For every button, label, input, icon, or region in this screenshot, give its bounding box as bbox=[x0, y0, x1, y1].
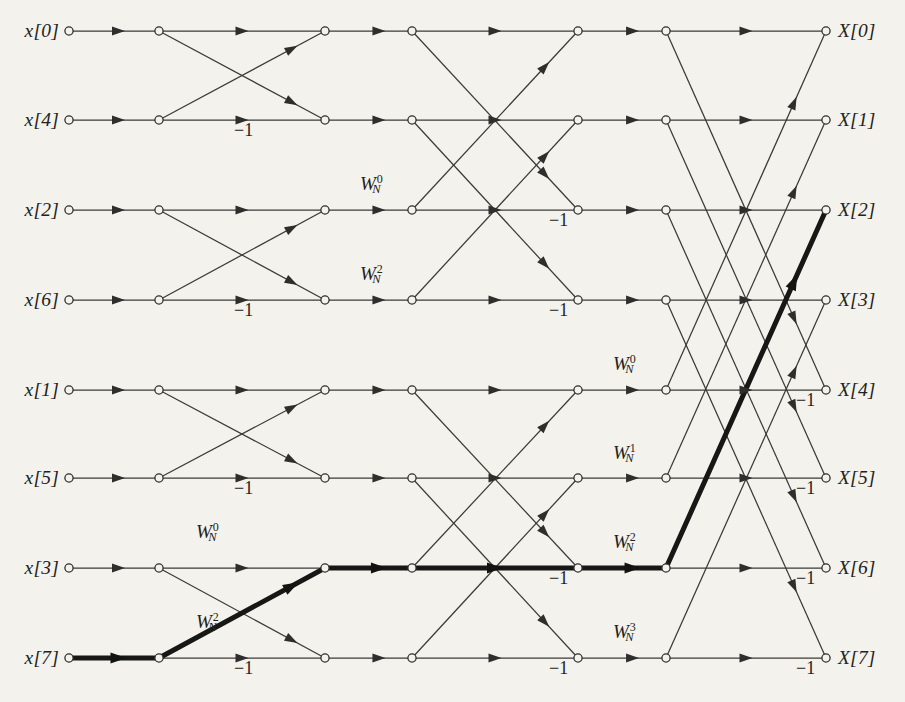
stage2-straight-bot-r7-arrowhead bbox=[489, 654, 502, 663]
stage1-cross-down-r0-arrowhead bbox=[284, 95, 298, 105]
stage2-link-r3-arrowhead bbox=[626, 296, 639, 305]
stage2-straight-bot-r6-arrowhead bbox=[487, 562, 503, 573]
graph-node-c5-r2 bbox=[662, 206, 670, 214]
graph-node-c0-r4 bbox=[65, 386, 73, 394]
graph-node-c2-r7 bbox=[321, 654, 329, 662]
stage3-cross-up-r7-arrowhead bbox=[787, 366, 796, 380]
stage2-straight-bot-r3-arrowhead bbox=[489, 296, 502, 305]
input-lead-x[5]-arrowhead bbox=[112, 474, 125, 483]
stage2-link-r5-arrowhead bbox=[626, 474, 639, 483]
stage1-cross-down-r4-arrowhead bbox=[284, 453, 298, 463]
stage3-straight-bot-r7-arrowhead bbox=[740, 654, 753, 663]
stage3-straight-bot-r5-arrowhead bbox=[740, 474, 753, 483]
graph-node-c5-r3 bbox=[662, 296, 670, 304]
stage1-cross-up-r1-arrowhead bbox=[284, 46, 298, 56]
input-lead-x[2]-arrowhead bbox=[112, 206, 125, 215]
graph-node-c0-r0 bbox=[65, 27, 73, 35]
graph-node-c4-r0 bbox=[574, 27, 582, 35]
stage1-cross-down-r2-arrowhead bbox=[284, 275, 298, 285]
twiddle-label-WN1-5: W1N bbox=[613, 440, 643, 463]
stage2-link-r2-arrowhead bbox=[626, 206, 639, 215]
input-label-x[3]: x[3] bbox=[25, 557, 59, 579]
flow-graph-canvas bbox=[0, 0, 905, 702]
graph-node-c6-r1 bbox=[822, 116, 830, 124]
minus-one-label-11: −1 bbox=[796, 658, 815, 679]
minus-one-label-4: −1 bbox=[549, 210, 568, 231]
graph-node-c1-r0 bbox=[155, 27, 163, 35]
input-lead-x[3]-arrowhead bbox=[112, 564, 125, 573]
output-label-X[3]: X[3] bbox=[838, 289, 876, 311]
minus-one-label-6: −1 bbox=[549, 568, 568, 589]
twiddle-label-WN2-3: W2N bbox=[196, 609, 226, 632]
stage3-cross-up-r5-arrowhead bbox=[787, 186, 796, 200]
stage3-straight-top-r0-arrowhead bbox=[740, 27, 753, 36]
stage2-straight-bot-r2-arrowhead bbox=[489, 206, 502, 215]
graph-node-c0-r1 bbox=[65, 116, 73, 124]
stage1-cross-up-r3-arrowhead bbox=[284, 225, 298, 235]
output-label-X[6]: X[6] bbox=[838, 557, 876, 579]
stage1-cross-down-r6-arrowhead bbox=[284, 633, 298, 643]
input-lead-x[6]-arrowhead bbox=[112, 296, 125, 305]
graph-node-c3-r5 bbox=[408, 474, 416, 482]
output-label-X[5]: X[5] bbox=[838, 467, 876, 489]
input-label-x[4]: x[4] bbox=[25, 109, 59, 131]
graph-node-c2-r3 bbox=[321, 296, 329, 304]
stage3-straight-bot-r6-arrowhead bbox=[740, 564, 753, 573]
minus-one-label-9: −1 bbox=[796, 478, 815, 499]
graph-node-c5-r6 bbox=[662, 564, 670, 572]
graph-node-c1-r7 bbox=[155, 654, 163, 662]
graph-node-c4-r3 bbox=[574, 296, 582, 304]
graph-node-c1-r2 bbox=[155, 206, 163, 214]
stage2-link-r7-arrowhead bbox=[626, 654, 639, 663]
minus-one-label-2: −1 bbox=[234, 478, 253, 499]
graph-node-c5-r1 bbox=[662, 116, 670, 124]
graph-node-c4-r2 bbox=[574, 206, 582, 214]
highlight-path-layer bbox=[69, 210, 826, 658]
stage2-link-r0-arrowhead bbox=[626, 27, 639, 36]
graph-node-c2-r5 bbox=[321, 474, 329, 482]
minus-one-label-3: −1 bbox=[234, 658, 253, 679]
thin-wires-layer bbox=[69, 31, 826, 658]
output-label-X[0]: X[0] bbox=[838, 20, 876, 42]
graph-node-c4-r1 bbox=[574, 116, 582, 124]
input-label-x[5]: x[5] bbox=[25, 467, 59, 489]
stage1-link-r1-arrowhead bbox=[372, 116, 385, 125]
graph-node-c2-r6 bbox=[321, 564, 329, 572]
graph-node-c5-r5 bbox=[662, 474, 670, 482]
input-label-x[6]: x[6] bbox=[25, 289, 59, 311]
stage3-cross-up-r4-arrowhead bbox=[787, 97, 796, 111]
graph-node-c3-r3 bbox=[408, 296, 416, 304]
stage1-straight-top-r2-arrowhead bbox=[236, 206, 249, 215]
output-label-X[4]: X[4] bbox=[838, 379, 876, 401]
input-label-x[0]: x[0] bbox=[25, 20, 59, 42]
stage3-straight-top-r2-arrowhead bbox=[740, 206, 753, 215]
minus-one-label-5: −1 bbox=[549, 300, 568, 321]
stage3-straight-top-r1-arrowhead bbox=[740, 116, 753, 125]
graph-node-c6-r6 bbox=[822, 564, 830, 572]
minus-one-label-8: −1 bbox=[796, 390, 815, 411]
graph-node-c6-r7 bbox=[822, 654, 830, 662]
fft-flow-graph-figure: x[0]x[4]x[2]x[6]x[1]x[5]x[3]x[7]X[0]X[1]… bbox=[0, 0, 905, 702]
graph-node-c0-r3 bbox=[65, 296, 73, 304]
graph-node-c1-r3 bbox=[155, 296, 163, 304]
graph-node-c3-r6 bbox=[408, 564, 416, 572]
minus-one-label-1: −1 bbox=[234, 300, 253, 321]
stage1-link-r0-arrowhead bbox=[372, 27, 385, 36]
input-label-x[2]: x[2] bbox=[25, 199, 59, 221]
graph-node-c6-r0 bbox=[822, 27, 830, 35]
graph-node-c3-r4 bbox=[408, 386, 416, 394]
output-label-X[7]: X[7] bbox=[838, 647, 876, 669]
twiddle-label-WN2-6: W2N bbox=[613, 529, 643, 552]
input-lead-x[7]-arrowhead bbox=[111, 652, 127, 663]
graph-node-c6-r3 bbox=[822, 296, 830, 304]
minus-one-label-10: −1 bbox=[796, 568, 815, 589]
twiddle-label-WN0-2: W0N bbox=[196, 519, 226, 542]
graph-node-c1-r4 bbox=[155, 386, 163, 394]
graph-node-c1-r5 bbox=[155, 474, 163, 482]
output-label-X[1]: X[1] bbox=[838, 109, 876, 131]
stage1-cross-up-r7-arrowhead bbox=[282, 582, 299, 595]
stage1-cross-up-r5-arrowhead bbox=[284, 405, 298, 415]
graph-node-c3-r0 bbox=[408, 27, 416, 35]
stage1-link-r5-arrowhead bbox=[372, 474, 385, 483]
stage1-link-r6-arrowhead bbox=[371, 562, 387, 573]
